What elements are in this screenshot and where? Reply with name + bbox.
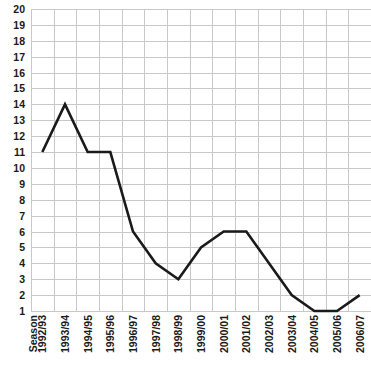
y-tick-label: 20 xyxy=(13,4,25,15)
y-tick-label: 18 xyxy=(13,36,25,47)
data-series xyxy=(31,9,371,311)
x-tick-label: 2000/01 xyxy=(219,315,230,353)
plot-area xyxy=(31,9,371,311)
x-tick-label: 1992/93 xyxy=(37,315,48,353)
x-tick-label: 2002/03 xyxy=(264,315,275,353)
y-tick-label: 5 xyxy=(19,242,25,253)
line-chart: 1234567891011121314151617181920 Season19… xyxy=(0,0,371,383)
y-tick-label: 16 xyxy=(13,67,25,78)
x-tick-label: 1998/99 xyxy=(173,315,184,353)
x-tick-label: 2005/06 xyxy=(332,315,343,353)
x-tick-label: 2001/02 xyxy=(241,315,252,353)
y-tick-label: 14 xyxy=(13,99,25,110)
y-axis: 1234567891011121314151617181920 xyxy=(0,0,28,320)
x-tick-label: 1997/98 xyxy=(151,315,162,353)
y-tick-label: 2 xyxy=(19,290,25,301)
x-tick-label: 1994/95 xyxy=(83,315,94,353)
y-tick-label: 9 xyxy=(19,179,25,190)
x-tick-label: 1993/94 xyxy=(60,315,71,353)
y-tick-label: 4 xyxy=(19,258,25,269)
y-tick-label: 3 xyxy=(19,274,25,285)
x-tick-label: 1999/00 xyxy=(196,315,207,353)
y-tick-label: 11 xyxy=(14,147,25,158)
y-tick-label: 10 xyxy=(13,163,25,174)
x-axis: Season1992/931993/941994/951995/961996/9… xyxy=(0,313,371,383)
y-tick-label: 19 xyxy=(13,20,25,31)
x-tick-label: 1996/97 xyxy=(128,315,139,353)
x-tick-label: 2003/04 xyxy=(287,315,298,353)
y-tick-label: 8 xyxy=(19,194,25,205)
y-tick-label: 6 xyxy=(19,226,25,237)
x-tick-label: 1995/96 xyxy=(105,315,116,353)
y-tick-label: 7 xyxy=(19,210,25,221)
y-tick-label: 17 xyxy=(13,51,25,62)
y-tick-label: 15 xyxy=(13,83,25,94)
series-line-position xyxy=(42,104,359,311)
x-tick-label: 2006/07 xyxy=(355,315,366,353)
x-tick-label: 2004/05 xyxy=(309,315,320,353)
y-tick-label: 13 xyxy=(13,115,25,126)
y-tick-label: 12 xyxy=(13,131,25,142)
